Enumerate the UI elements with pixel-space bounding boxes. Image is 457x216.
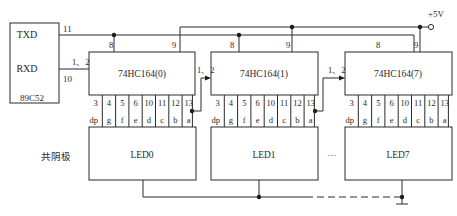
pin-number: 5	[120, 98, 124, 108]
vcc-terminal-icon	[428, 24, 433, 29]
pin-number: 3	[216, 98, 220, 108]
segment-label: f	[121, 115, 124, 125]
segment-label: dp	[345, 115, 354, 125]
segment-label: e	[134, 115, 138, 125]
pin-number: 5	[376, 98, 380, 108]
segment-label: f	[243, 115, 246, 125]
pin-number: 6	[255, 98, 259, 108]
pin-number: 10	[401, 98, 410, 108]
txd-label: TXD	[17, 29, 38, 40]
ellipsis: ···	[328, 150, 337, 160]
led-label: LED1	[252, 150, 275, 160]
data-pin: 1、2	[197, 65, 215, 75]
pin-number: 4	[363, 98, 368, 108]
vcc-label: +5V	[428, 9, 445, 19]
pin-number: 11	[158, 98, 166, 108]
chip-label: 74HC164(1)	[240, 69, 288, 80]
ground-bus	[143, 180, 408, 204]
clr-pin: 9	[172, 40, 176, 50]
pin-number: 4	[107, 98, 112, 108]
segment-label: d	[403, 115, 408, 125]
shift-register-1: 74HC164(1) 8 9 1、2	[197, 40, 318, 95]
pin-number: 12	[427, 98, 436, 108]
segment-label: c	[416, 115, 420, 125]
segment-label: f	[377, 115, 380, 125]
circuit-diagram: TXD RXD 89C52 11 10 +5V 74HC164(0) 8 9 1…	[0, 0, 457, 216]
output-pins-0: 3dp4g5f6e10d11c12b13a	[89, 95, 193, 127]
pin-number: 5	[242, 98, 246, 108]
chip-label: 74HC164(7)	[374, 69, 422, 80]
data-pin: 1、2	[72, 57, 90, 67]
segment-label: e	[390, 115, 394, 125]
segment-label: b	[429, 115, 433, 125]
pin-number: 3	[350, 98, 354, 108]
segment-label: dp	[211, 115, 220, 125]
pin-number: 6	[389, 98, 393, 108]
segment-label: g	[107, 115, 112, 125]
segment-label: a	[309, 115, 313, 125]
pin-number: 3	[94, 98, 98, 108]
chip-label: 74HC164(0)	[118, 69, 166, 80]
rxd-label: RXD	[16, 63, 37, 74]
pin-number: 6	[133, 98, 137, 108]
clr-pin: 9	[286, 40, 290, 50]
output-pins-1: 3dp4g5f6e10d11c12b13a	[211, 95, 315, 127]
segment-label: a	[443, 115, 447, 125]
segment-label: a	[187, 115, 191, 125]
segment-label: e	[256, 115, 260, 125]
clk-pin: 8	[230, 40, 234, 50]
output-pins-7: 3dp4g5f6e10d11c12b13a	[345, 95, 449, 127]
pin-number: 13	[441, 98, 450, 108]
pin-number: 12	[171, 98, 180, 108]
txd-pin-number: 11	[63, 24, 72, 34]
pin-number: 12	[293, 98, 302, 108]
common-cathode-label: 共阴极	[41, 151, 71, 162]
pin-number: 13	[307, 98, 316, 108]
segment-label: dp	[89, 115, 98, 125]
pin-number: 11	[280, 98, 288, 108]
data-pin: 1、2	[328, 65, 346, 75]
segment-label: c	[160, 115, 164, 125]
segment-label: d	[269, 115, 274, 125]
segment-label: b	[173, 115, 177, 125]
pin-number: 13	[185, 98, 194, 108]
segment-label: g	[229, 115, 234, 125]
clk-pin: 8	[109, 40, 113, 50]
pin-number: 4	[229, 98, 234, 108]
led-label: LED0	[130, 150, 153, 160]
mcu-label: 89C52	[20, 93, 44, 103]
pin-number: 11	[414, 98, 422, 108]
led-display-7: LED7	[345, 127, 452, 180]
segment-label: b	[295, 115, 299, 125]
clr-pin: 9	[414, 40, 418, 50]
pin-number: 10	[267, 98, 276, 108]
segment-label: d	[147, 115, 152, 125]
clk-pin: 8	[376, 40, 380, 50]
vcc-bus: +5V	[180, 9, 445, 52]
shift-register-7: 74HC164(7) 8 9 1、2	[328, 40, 452, 95]
led-label: LED7	[386, 150, 409, 160]
segment-label: g	[363, 115, 368, 125]
led-display-1: LED1	[211, 127, 318, 180]
led-display-0: LED0	[89, 127, 196, 180]
segment-label: c	[282, 115, 286, 125]
pin-number: 10	[145, 98, 154, 108]
shift-register-0: 74HC164(0) 8 9 1、2	[72, 40, 195, 95]
rxd-pin-number: 10	[63, 74, 73, 84]
